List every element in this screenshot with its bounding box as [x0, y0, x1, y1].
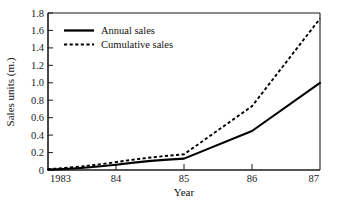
y-tick-label-8: 1.6: [31, 25, 44, 36]
y-tick-label-4: 0.8: [31, 95, 44, 106]
y-tick-label-5: 1.0: [31, 77, 44, 88]
x-tick-label-86: 86: [247, 173, 258, 184]
y-tick-label-9: 1.8: [31, 8, 44, 19]
y-tick-label-7: 1.4: [31, 42, 45, 53]
chart-legend: Annual sales Cumulative sales: [64, 25, 173, 50]
y-axis-title: Sales units (m.): [4, 57, 17, 126]
y-tick-label-2: 0.4: [31, 130, 45, 141]
y-tick-labels: 0 0.2 0.4 0.6 0.8 1.0 1.2 1.4 1.6 1.8: [31, 8, 45, 176]
y-tick-label-1: 0.2: [31, 147, 44, 158]
y-tick-label-6: 1.2: [31, 60, 44, 71]
x-axis-title: Year: [174, 186, 195, 198]
series-cumulative-sales: [48, 19, 320, 170]
x-tick-labels: 1983 84 85 86 87: [50, 173, 319, 184]
y-tick-label-3: 0.6: [31, 112, 44, 123]
line-chart: 0 0.2 0.4 0.6 0.8 1.0 1.2 1.4 1.6 1.8 19…: [0, 0, 338, 205]
x-tick-label-84: 84: [111, 173, 122, 184]
legend-label-annual-sales: Annual sales: [101, 25, 155, 36]
series-annual-sales: [48, 83, 320, 170]
x-tick-label-1983: 1983: [50, 173, 71, 184]
chart-figure: 0 0.2 0.4 0.6 0.8 1.0 1.2 1.4 1.6 1.8 19…: [0, 0, 338, 205]
x-tick-label-85: 85: [179, 173, 190, 184]
legend-label-cumulative-sales: Cumulative sales: [101, 39, 173, 50]
plot-frame: [48, 13, 320, 170]
y-tick-label-0: 0: [39, 165, 44, 176]
x-axis-ticks: [116, 164, 252, 170]
x-tick-label-87: 87: [309, 173, 320, 184]
